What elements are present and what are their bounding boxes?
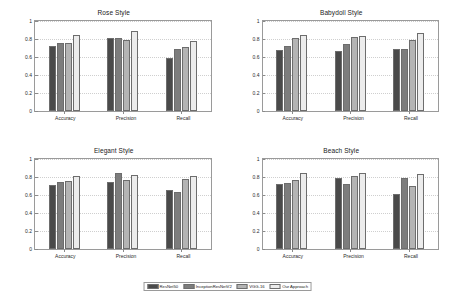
y-axis-tick-label: 0.4 [253, 210, 260, 216]
x-axis-tick-label: Accuracy [283, 115, 304, 121]
bar-groups [35, 21, 211, 111]
panel-grid: Rose Style00.20.40.60.81AccuracyPrecisio… [0, 4, 455, 280]
legend-label: VGG-16 [249, 284, 264, 289]
bar [393, 194, 400, 249]
legend-entry: InceptionResNetV2 [183, 284, 232, 289]
bar-groups [263, 159, 439, 249]
x-axis-tick-label: Precision [343, 115, 364, 121]
y-axis-tick-label: 0.8 [25, 36, 32, 42]
x-tick-mark [409, 249, 410, 252]
bar-group [166, 159, 197, 249]
bar [417, 33, 424, 111]
bar [393, 49, 400, 111]
x-tick-mark [64, 111, 65, 114]
x-axis-tick-label: Recall [404, 253, 418, 259]
bar-group [107, 21, 138, 111]
y-tick-mark [35, 249, 38, 250]
bar [292, 180, 299, 249]
bar [174, 49, 181, 111]
y-axis-tick-label: 0.6 [253, 192, 260, 198]
legend-label: Our Approach [282, 284, 308, 289]
y-axis-tick-label: 0.2 [253, 228, 260, 234]
x-axis-tick-label: Accuracy [55, 253, 76, 259]
bar [190, 41, 197, 111]
plot-area: 00.20.40.60.81AccuracyPrecisionRecall [34, 158, 212, 250]
bar [57, 43, 64, 111]
bar [284, 46, 291, 111]
bar [343, 44, 350, 112]
x-tick-mark [123, 111, 124, 114]
bar-group [276, 21, 307, 111]
plot-area: 00.20.40.60.81AccuracyPrecisionRecall [262, 20, 440, 112]
panel-title: Babydoll Style [228, 9, 455, 16]
bar [123, 40, 130, 111]
chart-panel: Rose Style00.20.40.60.81AccuracyPrecisio… [0, 4, 228, 142]
x-tick-mark [181, 249, 182, 252]
bar [115, 38, 122, 111]
x-axis-tick-label: Recall [176, 253, 190, 259]
bar [409, 186, 416, 249]
bar [166, 58, 173, 111]
x-tick-mark [292, 249, 293, 252]
bar [300, 173, 307, 249]
y-tick-mark [263, 111, 266, 112]
x-axis-tick-label: Recall [176, 115, 190, 121]
y-axis-tick-label: 1 [257, 18, 260, 24]
bar [107, 182, 114, 249]
chart-panel: Beach Style00.20.40.60.81AccuracyPrecisi… [228, 142, 455, 280]
bar [359, 173, 366, 250]
y-axis-tick-label: 1 [29, 18, 32, 24]
bar-group [335, 21, 366, 111]
chart-panel: Babydoll Style00.20.40.60.81AccuracyPrec… [228, 4, 455, 142]
bar [409, 40, 416, 111]
bar [131, 175, 138, 249]
bar [174, 192, 181, 249]
y-axis-tick-label: 0.4 [25, 210, 32, 216]
bar [335, 178, 342, 249]
bar-group [335, 159, 366, 249]
x-tick-mark [64, 249, 65, 252]
x-tick-mark [350, 111, 351, 114]
legend-entry: Our Approach [270, 284, 308, 289]
bar-group [393, 21, 424, 111]
bar [123, 180, 130, 249]
x-axis-tick-label: Accuracy [55, 115, 76, 121]
bar-groups [263, 21, 439, 111]
legend-entry: VGG-16 [237, 284, 265, 289]
bar [401, 49, 408, 111]
y-axis-tick-label: 0.4 [25, 72, 32, 78]
legend-swatch [237, 284, 248, 289]
bar [335, 51, 342, 111]
bar [57, 182, 64, 250]
y-axis-tick-label: 0.8 [25, 174, 32, 180]
bar [359, 36, 366, 111]
y-axis-tick-label: 0.6 [253, 54, 260, 60]
x-axis-labels: AccuracyPrecisionRecall [263, 115, 439, 121]
bar [65, 181, 72, 249]
x-axis-tick-label: Accuracy [283, 253, 304, 259]
bar-group [49, 159, 80, 249]
x-axis-tick-label: Precision [116, 115, 137, 121]
y-axis-tick-label: 0.8 [253, 174, 260, 180]
y-axis-tick-label: 0.2 [253, 90, 260, 96]
y-tick-mark [263, 249, 266, 250]
legend-swatch [147, 284, 158, 289]
y-tick-mark [35, 111, 38, 112]
plot-area: 00.20.40.60.81AccuracyPrecisionRecall [262, 158, 440, 250]
x-tick-mark [123, 249, 124, 252]
legend-label: InceptionResNetV2 [196, 284, 232, 289]
y-axis-tick-label: 1 [257, 156, 260, 162]
x-tick-mark [409, 111, 410, 114]
bar [343, 184, 350, 249]
y-axis-tick-label: 0.4 [253, 72, 260, 78]
bar [73, 35, 80, 111]
bar [276, 50, 283, 111]
chart-panel: Elegant Style00.20.40.60.81AccuracyPreci… [0, 142, 228, 280]
bar [401, 178, 408, 249]
y-axis-tick-label: 1 [29, 156, 32, 162]
x-axis-tick-label: Precision [343, 253, 364, 259]
x-axis-tick-label: Precision [116, 253, 137, 259]
bar [131, 31, 138, 111]
bar [49, 185, 56, 249]
bar [284, 183, 291, 249]
